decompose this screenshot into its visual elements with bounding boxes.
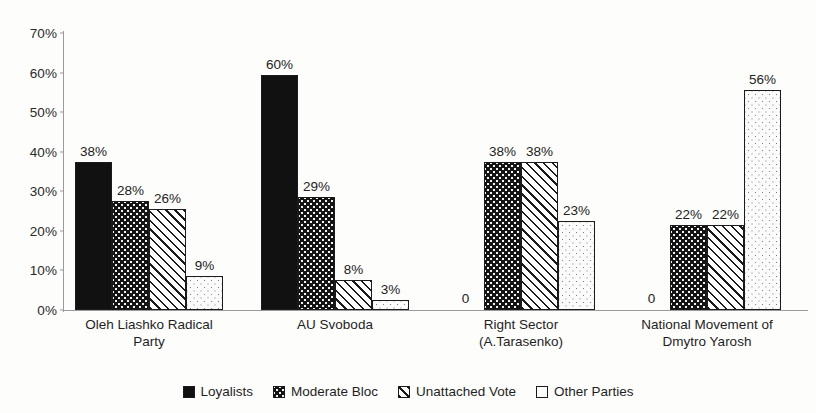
category-label-line: Oleh Liashko Radical [54,316,244,333]
chart-legend: LoyalistsModerate BlocUnattached VoteOth… [0,384,816,399]
bar[interactable] [484,162,521,310]
bar-slot: 38% [521,33,558,310]
legend-label: Other Parties [554,384,634,399]
bar-slot: 38% [484,33,521,310]
legend-swatch-icon [183,386,195,398]
bar-group: 022%22%56% [633,33,781,310]
y-axis-tick-label: 30% [30,184,57,199]
bar-slot: 8% [335,33,372,310]
bar-value-label: 3% [381,282,401,297]
x-axis-category-label: National Movement ofDmytro Yarosh [612,316,802,350]
bar-zero-label: 0 [462,291,470,306]
bar[interactable] [670,225,707,310]
bar[interactable] [186,276,223,310]
bar-value-label: 56% [749,72,776,87]
x-axis-line [63,310,808,311]
y-axis-tick-mark [60,191,64,192]
x-axis-category-label: Oleh Liashko RadicalParty [54,316,244,350]
bar-value-label: 38% [489,144,516,159]
y-axis-tick-mark [60,151,64,152]
bar[interactable] [707,225,744,310]
bar[interactable] [372,300,409,310]
bar[interactable] [521,162,558,310]
category-label-line: Dmytro Yarosh [612,333,802,350]
bar-group: 038%38%23% [447,33,595,310]
y-axis-tick-label: 70% [30,26,57,41]
bar-value-label: 22% [675,207,702,222]
bar-slot: 29% [298,33,335,310]
x-axis-category-label: AU Svoboda [240,316,430,333]
category-label-line: AU Svoboda [240,316,430,333]
bar[interactable] [744,90,781,310]
y-axis-tick-mark [60,310,64,311]
bar-slot: 38% [75,33,112,310]
bar[interactable] [149,209,186,310]
x-axis-category-label: Right Sector(A.Tarasenko) [426,316,616,350]
legend-label: Loyalists [201,384,254,399]
y-axis-tick-label: 40% [30,144,57,159]
bar-value-label: 9% [195,258,215,273]
y-axis-tick-label: 50% [30,105,57,120]
bar-group: 38%28%26%9% [75,33,223,310]
legend-label: Unattached Vote [416,384,516,399]
bar-value-label: 38% [80,144,107,159]
category-label-line: Party [54,333,244,350]
bar-slot: 9% [186,33,223,310]
bar-slot: 22% [707,33,744,310]
bar-zero-label: 0 [648,291,656,306]
plot-area: 0%10%20%30%40%50%60%70% 38%28%26%9%60%29… [64,33,808,310]
bar[interactable] [298,197,335,310]
bar[interactable] [335,280,372,310]
y-axis-tick-mark [60,72,64,73]
bar-value-label: 38% [526,144,553,159]
bar-slot: 0 [447,33,484,310]
bar-slot: 56% [744,33,781,310]
category-label-line: Right Sector [426,316,616,333]
bar-value-label: 60% [266,57,293,72]
legend-item[interactable]: Unattached Vote [398,384,516,399]
category-label-line: National Movement of [612,316,802,333]
legend-swatch-icon [398,386,410,398]
bar-group: 60%29%8%3% [261,33,409,310]
legend-item[interactable]: Loyalists [183,384,254,399]
bar-slot: 28% [112,33,149,310]
y-axis-tick-mark [60,112,64,113]
bar[interactable] [261,75,298,310]
bar-value-label: 28% [117,183,144,198]
y-axis-tick-label: 20% [30,223,57,238]
y-axis-tick-mark [60,270,64,271]
bar-slot: 0 [633,33,670,310]
bar-slot: 22% [670,33,707,310]
bar-value-label: 8% [344,262,364,277]
bar-slot: 26% [149,33,186,310]
legend-swatch-icon [536,386,548,398]
y-axis-tick-label: 10% [30,263,57,278]
bar[interactable] [112,201,149,310]
bar-value-label: 29% [303,179,330,194]
bar-slot: 60% [261,33,298,310]
legend-label: Moderate Bloc [291,384,378,399]
bar-slot: 23% [558,33,595,310]
bar-value-label: 23% [563,203,590,218]
legend-item[interactable]: Moderate Bloc [273,384,378,399]
legend-item[interactable]: Other Parties [536,384,634,399]
y-axis-tick-label: 60% [30,65,57,80]
category-label-line: (A.Tarasenko) [426,333,616,350]
bar[interactable] [75,162,112,310]
y-axis-tick-mark [60,33,64,34]
y-axis-tick-mark [60,230,64,231]
grouped-bar-chart: 0%10%20%30%40%50%60%70% 38%28%26%9%60%29… [0,0,816,413]
bar-value-label: 22% [712,207,739,222]
bar-value-label: 26% [154,191,181,206]
bar[interactable] [558,221,595,310]
legend-swatch-icon [273,386,285,398]
bar-slot: 3% [372,33,409,310]
